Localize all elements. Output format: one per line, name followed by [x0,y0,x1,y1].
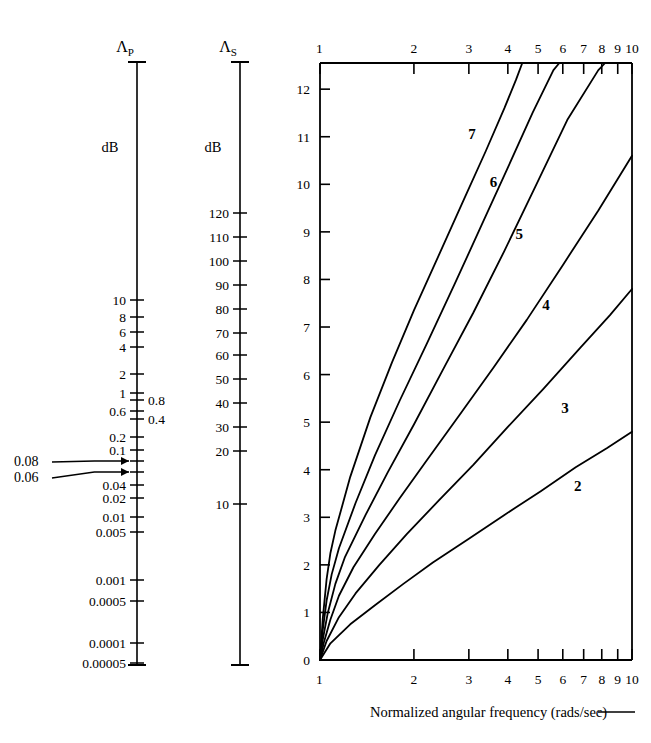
stopband-tick-label-6: 60 [216,348,230,363]
passband-annotation-arrowhead-0 [121,457,129,465]
chart-ytick-label-4: 4 [303,463,310,478]
chart-xtick-bottom-label-4: 5 [535,672,542,687]
chart-xtick-bottom-label-6: 7 [580,672,587,687]
stopband-tick-label-3: 90 [216,278,230,293]
passband-tick-label-10: 0.1 [109,443,126,458]
passband-tick-label-14: 0.02 [102,491,126,506]
chart-xtick-top-label-1: 2 [411,41,418,56]
chart-xtick-bottom-label-9: 10 [625,672,639,687]
passband-tick-label-1: 8 [119,310,126,325]
chart-curve-4: 4 [320,156,632,660]
chart-ytick-label-12: 12 [297,82,311,97]
chart-xtick-top-label-7: 8 [598,41,605,56]
chart-xtick-bottom-label-8: 9 [614,672,621,687]
stopband-tick-label-4: 80 [216,302,230,317]
stopband-scale-group: ΛSdB120110100908070605040302010 [205,38,249,665]
chart-ytick-label-9: 9 [303,225,310,240]
main-chart-group: 0123456789101112112233445566778899101076… [297,41,640,721]
stopband-tick-label-1: 110 [209,230,229,245]
stopband-scale-title: ΛS [219,38,237,58]
chart-curve-label-2: 2 [574,478,582,494]
chart-curve-label-6: 6 [490,174,498,190]
stopband-tick-label-0: 120 [209,206,230,221]
chart-ytick-label-10: 10 [297,177,311,192]
chart-curve-label-7: 7 [468,126,476,142]
chart-ytick-label-11: 11 [297,130,310,145]
chart-xtick-top-label-8: 9 [614,41,621,56]
stopband-tick-label-7: 50 [216,372,230,387]
chart-ytick-label-7: 7 [303,320,310,335]
stopband-tick-label-5: 70 [216,326,230,341]
passband-scale-subscript: P [128,46,134,58]
passband-tick-label-18: 0.0005 [89,594,126,609]
passband-tick-label-0: 10 [113,293,127,308]
stopband-tick-label-2: 100 [209,254,230,269]
passband-tick-label-17: 0.001 [96,573,126,588]
filter-design-nomogram: ΛPdB10864210.80.60.40.20.10.040.020.010.… [0,0,651,743]
chart-curve-line-5 [320,63,605,660]
passband-tick-label-16: 0.005 [96,525,127,540]
chart-xtick-bottom-label-2: 3 [465,672,472,687]
passband-tick-label-3: 4 [119,340,126,355]
stopband-tick-label-11: 10 [216,497,230,512]
passband-annotation-leader-0 [52,461,129,462]
chart-xtick-top-label-6: 7 [580,41,587,56]
chart-xaxis-caption: Normalized angular frequency (rads/sec) [370,704,607,721]
passband-annotation-arrowhead-1 [121,468,129,476]
passband-annotation-label-1: 0.06 [14,470,39,485]
chart-curve-5: 5 [320,63,605,660]
chart-curve-label-3: 3 [561,400,569,416]
passband-tick-label-5: 1 [119,386,126,401]
chart-xtick-top-label-3: 4 [504,41,511,56]
chart-xtick-bottom-label-0: 1 [316,672,323,687]
chart-xtick-top-label-9: 10 [625,41,639,56]
chart-ytick-label-1: 1 [303,605,310,620]
stopband-unit-label: dB [205,139,222,155]
passband-tick-label-20: 0.00005 [82,656,126,671]
passband-unit-label: dB [102,139,119,155]
chart-xtick-bottom-label-3: 4 [504,672,511,687]
passband-tick-label-19: 0.0001 [89,636,126,651]
chart-ytick-label-5: 5 [303,415,310,430]
passband-scale-group: ΛPdB10864210.80.60.40.20.10.040.020.010.… [14,38,165,671]
stopband-scale-subscript: S [231,46,237,58]
chart-curve-label-4: 4 [542,297,550,313]
chart-xtick-top-label-0: 1 [316,41,323,56]
chart-curve-line-4 [320,156,632,660]
chart-ytick-label-8: 8 [303,272,310,287]
chart-xtick-bottom-label-7: 8 [598,672,605,687]
passband-tick-label-15: 0.01 [102,510,126,525]
passband-scale-title: ΛP [116,38,134,58]
chart-xtick-top-label-5: 6 [559,41,566,56]
stopband-tick-label-9: 30 [216,420,230,435]
stopband-tick-label-8: 40 [216,396,230,411]
chart-xtick-top-label-2: 3 [465,41,472,56]
chart-curve-6: 6 [320,63,559,660]
chart-xtick-bottom-label-5: 6 [559,672,566,687]
passband-annotation-label-0: 0.08 [14,454,39,469]
passband-tick-label-8: 0.4 [148,412,165,427]
chart-xtick-top-label-4: 5 [535,41,542,56]
chart-ytick-label-2: 2 [303,558,310,573]
chart-curve-label-5: 5 [515,226,523,242]
passband-tick-label-6: 0.8 [148,393,165,408]
passband-tick-label-2: 6 [119,325,126,340]
chart-ytick-label-0: 0 [303,653,310,668]
stopband-tick-label-10: 20 [216,444,230,459]
passband-tick-label-7: 0.6 [109,404,126,419]
chart-curve-line-6 [320,63,559,660]
chart-ytick-label-3: 3 [303,510,310,525]
chart-xtick-bottom-label-1: 2 [411,672,418,687]
nomogram-svg: ΛPdB10864210.80.60.40.20.10.040.020.010.… [0,0,651,743]
passband-tick-label-4: 2 [119,367,126,382]
chart-ytick-label-6: 6 [303,368,310,383]
